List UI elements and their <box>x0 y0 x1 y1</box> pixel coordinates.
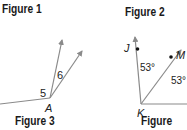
angle-diagrams: 5 6 A J M 53° 53° K <box>0 0 187 130</box>
angle-label-5: 5 <box>40 87 46 99</box>
angle-label-jkm: 53° <box>140 62 155 73</box>
figure-3-caption: Figure 3 <box>15 114 55 128</box>
point-label-j: J <box>123 42 130 54</box>
angle-label-mk-right: 53° <box>171 75 186 86</box>
point-j <box>136 47 140 51</box>
figure-1-diagram: 5 6 A <box>0 40 82 114</box>
angle-label-6: 6 <box>57 69 63 81</box>
figure-4-caption: Figure 4 <box>141 114 180 130</box>
point-m <box>169 55 173 59</box>
point-label-m: M <box>176 49 186 61</box>
vertex-label-a: A <box>44 102 52 114</box>
figure-2-diagram: J M 53° 53° K <box>123 37 187 119</box>
